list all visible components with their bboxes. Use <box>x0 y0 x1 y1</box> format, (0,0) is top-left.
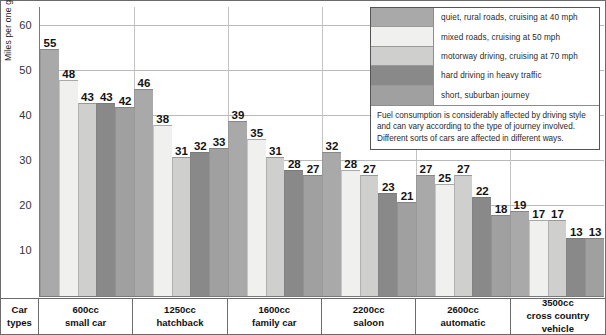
x-axis-title-line2: types <box>7 317 32 330</box>
bar-value-label: 13 <box>589 226 602 238</box>
bar: 18 <box>491 215 510 296</box>
bar: 17 <box>529 220 548 296</box>
bar: 48 <box>59 80 78 296</box>
category-label-line1: 1250cc <box>164 304 196 317</box>
bar-value-label: 27 <box>457 163 470 175</box>
bar: 13 <box>585 238 604 296</box>
bar: 42 <box>115 107 134 296</box>
bar-value-label: 23 <box>382 181 395 193</box>
category-label-line2: cross country vehicle <box>511 310 605 335</box>
bar-value-label: 55 <box>43 37 56 49</box>
legend-label: motorway driving, cruising at 70 mph <box>434 47 599 66</box>
bar: 33 <box>209 148 228 296</box>
bar-value-label: 22 <box>476 185 489 197</box>
legend-item-1: quiet, rural roads, cruising at 40 mph <box>371 8 599 27</box>
bar-value-label: 43 <box>81 91 94 103</box>
category-label-line1: 2600cc <box>447 304 479 317</box>
bar: 17 <box>548 220 567 296</box>
bar: 31 <box>172 157 191 296</box>
bar-value-label: 32 <box>325 140 338 152</box>
bar: 13 <box>566 238 585 296</box>
x-axis-category-4: 2200ccsaloon <box>322 299 416 334</box>
x-axis-category-2: 1250cchatchback <box>133 299 227 334</box>
bar: 27 <box>416 175 435 296</box>
category-label-line2: automatic <box>441 317 486 330</box>
bar-value-label: 33 <box>213 136 226 148</box>
bar: 55 <box>40 49 59 296</box>
bar: 39 <box>228 121 247 296</box>
category-label-line1: 600cc <box>72 304 98 317</box>
bar: 27 <box>360 175 379 296</box>
bar-value-label: 13 <box>570 226 583 238</box>
legend-label: hard driving in heavy traffic <box>434 66 599 85</box>
bar: 21 <box>397 202 416 296</box>
bar-value-label: 27 <box>419 163 432 175</box>
x-axis-title-cell: Car types <box>1 299 39 334</box>
legend-swatch <box>371 47 434 66</box>
bar-value-label: 31 <box>175 145 188 157</box>
bar: 28 <box>341 170 360 296</box>
legend-item-4: hard driving in heavy traffic <box>371 66 599 85</box>
y-axis-label: Miles per one gallon of petrol <box>3 0 17 61</box>
legend-label: short, suburban journey <box>434 86 599 105</box>
legend: quiet, rural roads, cruising at 40 mphmi… <box>370 7 600 150</box>
bar-value-label: 43 <box>100 91 113 103</box>
x-axis-category-5: 2600ccautomatic <box>416 299 510 334</box>
bar: 32 <box>190 152 209 296</box>
legend-swatch <box>371 8 434 27</box>
x-axis-title-line1: Car <box>12 304 28 317</box>
bar-group-3: 3935312827 <box>228 7 322 296</box>
bar: 27 <box>303 175 322 296</box>
category-label-line1: 1600cc <box>258 304 290 317</box>
y-tick-label-40: 40 <box>19 110 31 122</box>
bar: 27 <box>454 175 473 296</box>
bar-group-1: 5548434342 <box>40 7 134 296</box>
bar-value-label: 27 <box>307 163 320 175</box>
bar: 32 <box>322 152 341 296</box>
legend-label: mixed roads, cruising at 50 mph <box>434 27 599 46</box>
bar-value-label: 46 <box>137 77 150 89</box>
x-axis-category-bar: Car types 600ccsmall car1250cchatchback1… <box>1 298 605 334</box>
legend-label: quiet, rural roads, cruising at 40 mph <box>434 8 599 27</box>
bar: 38 <box>153 125 172 296</box>
x-axis-category-3: 1600ccfamily car <box>228 299 322 334</box>
bar: 46 <box>134 89 153 296</box>
bar: 43 <box>78 103 97 296</box>
x-axis-category-1: 600ccsmall car <box>39 299 133 334</box>
bar: 43 <box>96 103 115 296</box>
x-axis-category-6: 3500cccross country vehicle <box>511 299 605 334</box>
bar-value-label: 28 <box>344 158 357 170</box>
legend-swatch <box>371 27 434 46</box>
bar-value-label: 32 <box>194 140 207 152</box>
bar-value-label: 48 <box>62 68 75 80</box>
bar-value-label: 17 <box>551 208 564 220</box>
bar-value-label: 19 <box>513 199 526 211</box>
bar-value-label: 42 <box>119 95 132 107</box>
bar: 25 <box>435 184 454 296</box>
legend-item-2: mixed roads, cruising at 50 mph <box>371 27 599 46</box>
category-label-line2: hatchback <box>156 317 203 330</box>
legend-rows: quiet, rural roads, cruising at 40 mphmi… <box>371 8 599 105</box>
bar: 23 <box>378 193 397 296</box>
bar-value-label: 21 <box>401 190 414 202</box>
legend-swatch <box>371 86 434 105</box>
y-tick-label-60: 60 <box>19 20 31 32</box>
y-tick-label-30: 30 <box>19 155 31 167</box>
bar-value-label: 27 <box>363 163 376 175</box>
category-label-line1: 2200cc <box>353 304 385 317</box>
bar-value-label: 28 <box>288 158 301 170</box>
fuel-consumption-bar-chart: Miles per one gallon of petrol 102030405… <box>0 0 606 335</box>
bar-value-label: 25 <box>438 172 451 184</box>
bar-value-label: 39 <box>231 109 244 121</box>
bar: 19 <box>510 211 529 296</box>
y-tick-label-20: 20 <box>19 200 31 212</box>
bar-value-label: 31 <box>269 145 282 157</box>
legend-item-3: motorway driving, cruising at 70 mph <box>371 47 599 66</box>
bar-value-label: 38 <box>156 113 169 125</box>
category-label-line2: saloon <box>353 317 384 330</box>
category-label-line1: 3500cc <box>542 297 574 310</box>
legend-swatch <box>371 66 434 85</box>
legend-item-5: short, suburban journey <box>371 86 599 105</box>
bar: 31 <box>266 157 285 296</box>
y-tick-label-10: 10 <box>19 244 31 256</box>
